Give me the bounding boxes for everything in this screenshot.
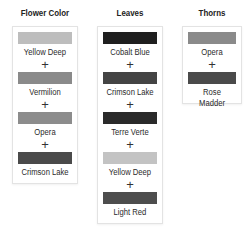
color-swatch [188,72,236,84]
plus-icon: + [103,139,157,152]
swatch-label: Cobalt Blue [106,47,155,59]
swatch-label: Opera [21,127,70,139]
mix-box: Cobalt Blue + Crimson Lake + Terre Verte… [97,26,163,224]
color-swatch [188,32,236,44]
plus-icon: + [18,59,72,72]
plus-icon: + [18,139,72,152]
mix-box: Yellow Deep + Vermilion + Opera + Crimso… [12,26,78,184]
swatch-label: Opera [190,47,233,59]
mix-box: Opera + Rose Madder [182,26,242,104]
column-flower-color: Flower Color Yellow Deep + Vermilion + O… [12,6,78,184]
column-thorns: Thorns Opera + Rose Madder [182,6,242,104]
color-swatch [103,192,157,204]
plus-icon: + [103,99,157,112]
color-swatch [18,112,72,124]
swatch-label: Vermilion [21,87,70,99]
swatch-label: Crimson Lake [106,87,155,99]
swatch-label: Yellow Deep [21,47,70,59]
swatch-label: Terre Verte [106,127,155,139]
column-title: Flower Color [16,6,74,20]
color-swatch [103,152,157,164]
color-swatch [103,72,157,84]
plus-icon: + [188,59,236,72]
swatch-label: Yellow Deep [106,167,155,179]
plus-icon: + [103,59,157,72]
plus-icon: + [18,99,72,112]
column-leaves: Leaves Cobalt Blue + Crimson Lake + Terr… [97,6,163,224]
plus-icon: + [103,179,157,192]
color-swatch [18,152,72,164]
swatch-label: Light Red [106,207,155,219]
swatch-label: Rose Madder [190,87,233,99]
color-swatch [18,32,72,44]
column-title: Thorns [186,6,239,20]
column-title: Leaves [101,6,159,20]
color-swatch [18,72,72,84]
color-swatch [103,112,157,124]
swatch-label: Crimson Lake [21,167,70,179]
color-swatch [103,32,157,44]
